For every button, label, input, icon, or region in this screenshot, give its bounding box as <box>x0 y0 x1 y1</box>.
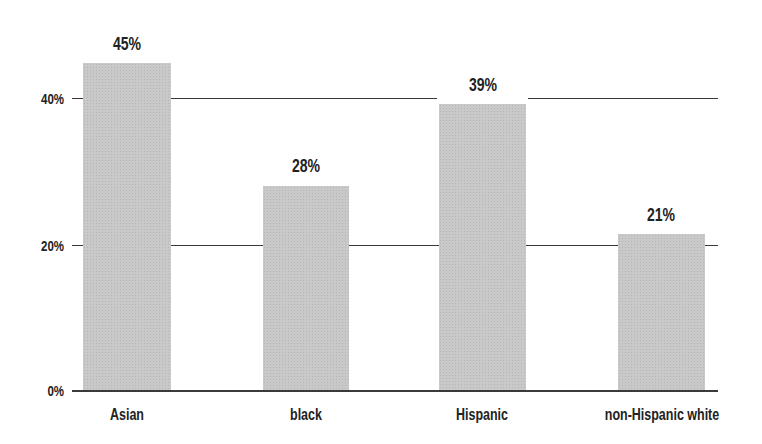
x-label-asian: Asian <box>49 406 205 424</box>
x-label-black: black <box>228 406 384 424</box>
bar-hispanic <box>439 104 526 390</box>
y-tick-20: 20% <box>12 238 64 254</box>
y-tick-40: 40% <box>12 91 64 107</box>
value-label-hispanic: 39% <box>436 75 530 95</box>
x-label-hispanic: Hispanic <box>404 406 560 424</box>
value-label-non-hispanic-white: 21% <box>614 205 708 225</box>
x-label-non-hispanic-white: non-Hispanic white <box>584 406 740 424</box>
value-label-black: 28% <box>259 156 353 176</box>
value-label-asian: 45% <box>80 34 174 54</box>
bar-chart: 40% 20% 0% 45% 28% 39% 21% Asian black H… <box>0 0 762 444</box>
x-axis-baseline <box>72 390 718 392</box>
bar-non-hispanic-white <box>618 234 705 390</box>
bar-black <box>263 186 349 390</box>
y-tick-0: 0% <box>12 383 64 399</box>
bar-asian <box>83 63 171 390</box>
